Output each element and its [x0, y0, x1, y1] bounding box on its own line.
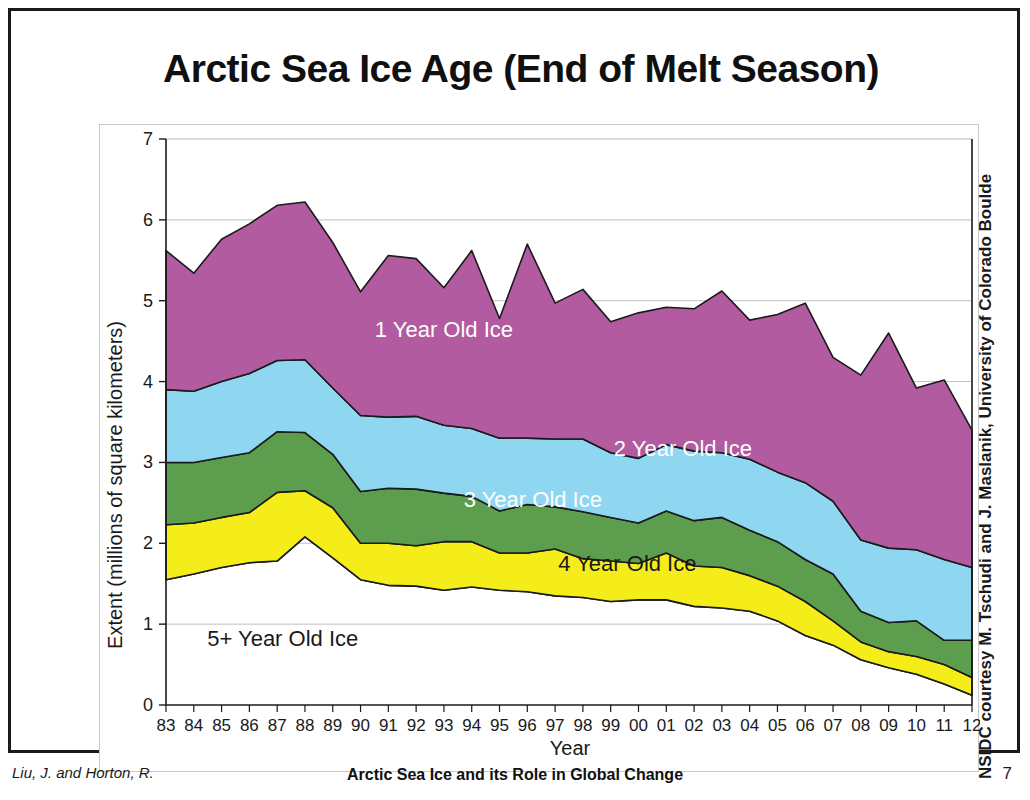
slide: Arctic Sea Ice Age (End of Melt Season) …	[0, 0, 1030, 800]
y-axis-title: Extent (millions of square kilometers)	[104, 321, 126, 649]
x-tick-label: 90	[351, 716, 370, 735]
x-tick-label: 98	[573, 716, 592, 735]
x-tick-label: 99	[601, 716, 620, 735]
x-tick-label: 03	[712, 716, 731, 735]
x-tick-label: 08	[851, 716, 870, 735]
x-tick-label: 07	[824, 716, 843, 735]
x-tick-label: 00	[629, 716, 648, 735]
x-tick-label: 95	[490, 716, 509, 735]
x-tick-label: 97	[546, 716, 565, 735]
chart-panel: 01234567 8384858687888990919293949596979…	[99, 124, 979, 772]
y-tick-label: 6	[143, 210, 153, 230]
y-tick-label: 0	[143, 695, 153, 715]
y-tick-label: 7	[143, 129, 153, 149]
series-label-2-year-old-ice: 2 Year Old Ice	[614, 436, 752, 461]
y-tick-label: 3	[143, 452, 153, 472]
series-label-1-year-old-ice: 1 Year Old Ice	[375, 317, 513, 342]
y-tick-label: 1	[143, 614, 153, 634]
footer-presentation-title: Arctic Sea Ice and its Role in Global Ch…	[0, 766, 1030, 784]
x-tick-label: 83	[157, 716, 176, 735]
y-tick-label: 2	[143, 533, 153, 553]
series-label-3-year-old-ice: 3 Year Old Ice	[464, 487, 602, 512]
x-tick-label: 93	[434, 716, 453, 735]
x-tick-label: 05	[768, 716, 787, 735]
x-tick-label: 06	[796, 716, 815, 735]
y-axis-ticks: 01234567	[143, 129, 166, 715]
x-tick-label: 09	[879, 716, 898, 735]
x-tick-label: 94	[462, 716, 481, 735]
chart-credit: NSIDC courtesy M. Tschudi and J. Maslani…	[981, 107, 1011, 779]
series-label-4-year-old-ice: 4 Year Old Ice	[558, 551, 696, 576]
x-tick-label: 85	[212, 716, 231, 735]
chart-plot-area: 01234567 8384858687888990919293949596979…	[100, 125, 980, 773]
slide-footer: Liu, J. and Horton, R. Arctic Sea Ice an…	[0, 756, 1030, 800]
x-tick-label: 84	[184, 716, 203, 735]
x-tick-label: 01	[657, 716, 676, 735]
x-tick-label: 10	[907, 716, 926, 735]
x-tick-label: 89	[323, 716, 342, 735]
x-tick-label: 11	[935, 716, 953, 735]
x-tick-label: 04	[740, 716, 759, 735]
x-tick-label: 92	[407, 716, 426, 735]
x-axis-ticks: 8384858687888990919293949596979899000102…	[157, 705, 980, 735]
x-tick-label: 91	[379, 716, 398, 735]
arctic-sea-ice-age-area-chart: 01234567 8384858687888990919293949596979…	[100, 125, 980, 773]
x-tick-label: 88	[296, 716, 315, 735]
slide-frame: Arctic Sea Ice Age (End of Melt Season) …	[8, 8, 1020, 753]
x-tick-label: 02	[685, 716, 704, 735]
x-tick-label: 86	[240, 716, 259, 735]
page-title: Arctic Sea Ice Age (End of Melt Season)	[71, 47, 971, 91]
stacked-area-series	[166, 202, 972, 695]
y-tick-label: 5	[143, 291, 153, 311]
footer-page-number: 7	[1003, 764, 1012, 784]
series-label-5-year-old-ice: 5+ Year Old Ice	[207, 626, 358, 651]
x-tick-label: 87	[268, 716, 287, 735]
x-tick-label: 96	[518, 716, 537, 735]
chart-credit-text: NSIDC courtesy M. Tschudi and J. Maslani…	[976, 174, 996, 779]
y-tick-label: 4	[143, 372, 153, 392]
